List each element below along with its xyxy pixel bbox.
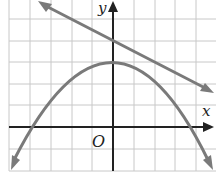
y-axis-label: y xyxy=(98,1,106,16)
parabola-arrow-left-icon xyxy=(11,155,20,170)
coordinate-graph xyxy=(0,0,216,194)
y-axis-arrow-icon xyxy=(108,1,118,12)
parabola-arrow-right-icon xyxy=(203,155,213,170)
parabola-graph xyxy=(14,63,208,161)
origin-label: O xyxy=(92,134,105,150)
line-arrow-left-icon xyxy=(38,1,52,12)
axes xyxy=(9,8,208,171)
line-graph xyxy=(44,5,207,89)
x-axis-arrow-icon xyxy=(203,122,214,132)
x-axis-label: x xyxy=(202,104,210,119)
